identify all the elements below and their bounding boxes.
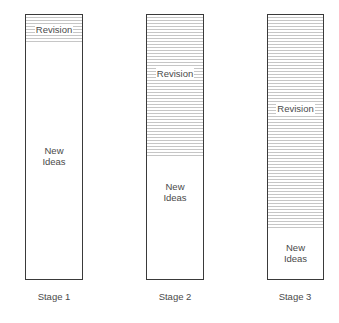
new-ideas-label: New Ideas bbox=[147, 181, 203, 203]
revision-label: Revision bbox=[268, 103, 323, 114]
stage-1-label: Stage 1 bbox=[24, 291, 84, 302]
stage-2-bar: Revision New Ideas bbox=[146, 14, 204, 280]
revision-label: Revision bbox=[147, 68, 203, 79]
revision-region bbox=[147, 15, 203, 156]
stage-2-label: Stage 2 bbox=[145, 291, 205, 302]
revision-region bbox=[268, 15, 323, 229]
new-ideas-label: New Ideas bbox=[268, 242, 323, 264]
stage-3-label: Stage 3 bbox=[265, 291, 325, 302]
new-ideas-label: New Ideas bbox=[26, 145, 82, 167]
stage-1-bar: Revision New Ideas bbox=[25, 14, 83, 280]
revision-label: Revision bbox=[26, 24, 82, 35]
stage-3-bar: Revision New Ideas bbox=[267, 14, 324, 280]
